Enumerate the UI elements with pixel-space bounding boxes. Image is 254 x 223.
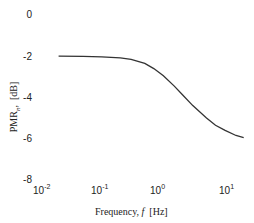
plot-svg — [0, 0, 254, 223]
chart-area: 0 -2 -4 -6 -8 10-2 10-1 100 101 Frequenc… — [0, 0, 254, 223]
data-line — [59, 56, 244, 137]
